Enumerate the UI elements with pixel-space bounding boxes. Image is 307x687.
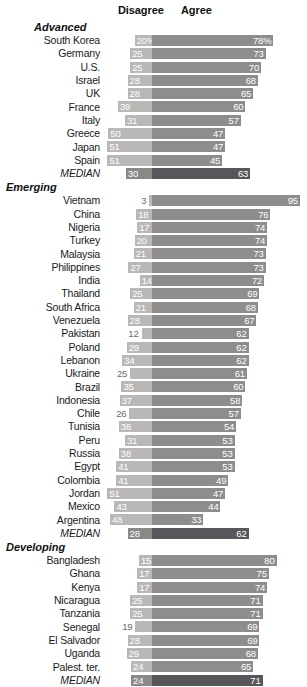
bar-segment-agree: 57	[152, 408, 241, 419]
row-plot: 1774	[104, 581, 307, 594]
row-plot: 3758	[104, 394, 307, 407]
row-plot: 2657	[104, 407, 307, 420]
bar-value-agree: 54	[222, 421, 236, 432]
row-label: El Salvador	[0, 635, 104, 646]
chart-groups: AdvancedSouth Korea20%78%Germany2573U.S.…	[0, 20, 307, 687]
bar-segment-disagree	[142, 328, 152, 339]
bar-segment-agree: 67	[152, 315, 256, 326]
row-label: Tanzania	[0, 608, 104, 619]
row-label: Colombia	[0, 475, 104, 486]
bar-segment-disagree: 51	[107, 155, 152, 166]
row-label: U.S.	[0, 62, 104, 73]
chart-row: South Africa2168	[0, 301, 307, 314]
row-label: MEDIAN	[0, 675, 104, 686]
row-label: Tunisia	[0, 421, 104, 432]
row-label: Lebanon	[0, 355, 104, 366]
bar-segment-disagree: 17	[137, 582, 152, 593]
bar-value-agree: 78%	[251, 35, 273, 46]
bar-segment-agree: 73	[152, 48, 266, 59]
bar-value-disagree: 15	[139, 555, 153, 566]
bar-value-disagree: 3	[139, 195, 148, 206]
bar-segment-disagree: 25	[130, 62, 152, 73]
bar-value-disagree: 21	[134, 248, 148, 259]
bar-value-disagree: 51	[107, 488, 121, 499]
bar-value-disagree: 17	[137, 222, 151, 233]
bar-value-disagree: 28	[128, 75, 142, 86]
bar-value-disagree: 37	[120, 395, 134, 406]
chart-row: UK2865	[0, 87, 307, 100]
chart-row: Kenya1774	[0, 581, 307, 594]
chart-row: Thailand2569	[0, 287, 307, 300]
chart-row: Malaysia2173	[0, 247, 307, 260]
bar-segment-agree: 47	[152, 128, 225, 139]
bar-segment-disagree: 43	[114, 501, 152, 512]
bar-value-agree: 63	[236, 168, 250, 179]
bar-segment-disagree: 41	[116, 461, 152, 472]
row-label: Egypt	[0, 461, 104, 472]
row-label: Japan	[0, 142, 104, 153]
row-plot: 3157	[104, 114, 307, 127]
bar-value-agree: 62	[234, 342, 248, 353]
row-plot: 3853	[104, 447, 307, 460]
chart-row: Tunisia3854	[0, 420, 307, 433]
bar-segment-disagree: 24	[131, 675, 152, 686]
row-label: Poland	[0, 342, 104, 353]
row-plot: 1876	[104, 208, 307, 221]
bar-segment-disagree: 24	[131, 661, 152, 672]
row-plot: 1774	[104, 221, 307, 234]
bar-segment-disagree: 25	[130, 48, 152, 59]
bar-segment-disagree: 35	[121, 381, 152, 392]
bar-value-agree: 33	[189, 514, 203, 525]
row-plot: 2573	[104, 47, 307, 60]
row-label: Venezuela	[0, 315, 104, 326]
legend-label-agree: Agree	[181, 4, 212, 16]
bar-value-agree: 80	[262, 555, 276, 566]
bar-value-disagree: 50	[108, 128, 122, 139]
bar-segment-agree: 68	[152, 75, 258, 86]
row-plot: 5147	[104, 487, 307, 500]
bar-segment-disagree: 31	[125, 115, 152, 126]
chart-row: Senegal1969	[0, 620, 307, 633]
bar-segment-agree: 65	[152, 661, 253, 672]
bar-segment-agree: 71	[152, 595, 263, 606]
bar-value-disagree: 25	[115, 368, 129, 379]
chart-row: MEDIAN3063	[0, 167, 307, 180]
bar-segment-disagree: 31	[125, 435, 152, 446]
row-label: Pakistan	[0, 328, 104, 339]
bar-value-disagree: 48	[110, 514, 124, 525]
row-label: Israel	[0, 75, 104, 86]
bar-segment-agree: 49	[152, 475, 228, 486]
bar-segment-disagree: 37	[120, 395, 152, 406]
bar-value-agree: 73	[251, 48, 265, 59]
row-plot: 3854	[104, 420, 307, 433]
chart-row: Venezuela2867	[0, 314, 307, 327]
chart-row: China1876	[0, 208, 307, 221]
bar-value-agree: 57	[227, 408, 241, 419]
bar-segment-agree: 69	[152, 288, 259, 299]
row-plot: 2074	[104, 234, 307, 247]
bar-value-agree: 74	[253, 582, 267, 593]
row-plot: 1262	[104, 327, 307, 340]
chart-row: Spain5145	[0, 154, 307, 167]
bar-segment-agree: 53	[152, 435, 235, 446]
row-plot: 5147	[104, 140, 307, 153]
bar-segment-agree: 62	[152, 328, 249, 339]
bar-value-disagree: 29	[127, 342, 141, 353]
row-plot: 3153	[104, 434, 307, 447]
bar-value-disagree: 25	[130, 48, 144, 59]
bar-value-disagree: 31	[125, 115, 139, 126]
bar-segment-agree: 57	[152, 115, 241, 126]
row-plot: 5145	[104, 154, 307, 167]
bar-value-disagree: 41	[116, 475, 130, 486]
chart-row: Uganda2968	[0, 647, 307, 660]
row-label: Nigeria	[0, 222, 104, 233]
chart-row: Nigeria1774	[0, 221, 307, 234]
bar-segment-disagree: 17	[137, 222, 152, 233]
row-plot: 395	[104, 194, 307, 207]
group-heading-advanced: Advanced	[0, 20, 307, 34]
bar-value-agree: 62	[234, 355, 248, 366]
row-plot: 2471	[104, 674, 307, 687]
bar-value-disagree: 24	[131, 675, 145, 686]
bar-value-agree: 65	[239, 661, 253, 672]
bar-segment-agree: 74	[152, 222, 267, 233]
